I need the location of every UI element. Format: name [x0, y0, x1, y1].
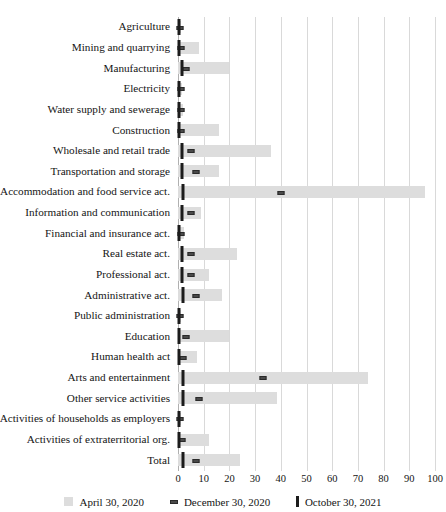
- bar-row: [178, 450, 435, 471]
- marker-december-30-2020: [192, 459, 199, 463]
- bar-row: [178, 265, 435, 286]
- bar-row: [178, 182, 435, 203]
- bar-row: [178, 141, 435, 162]
- marker-december-30-2020: [192, 170, 199, 174]
- gridline-100: [435, 17, 436, 471]
- marker-december-30-2020: [182, 335, 189, 339]
- category-label: Other service activities: [0, 388, 175, 409]
- category-label: Arts and entertainment: [0, 368, 175, 389]
- marker-october-30-2021: [177, 19, 180, 35]
- marker-october-30-2021: [177, 328, 180, 344]
- marker-december-30-2020: [192, 294, 199, 298]
- category-label: Real estate act.: [0, 244, 175, 265]
- category-label: Activities of households as employers: [0, 409, 175, 430]
- legend-label: December 30, 2020: [184, 496, 270, 508]
- marker-december-30-2020: [195, 397, 202, 401]
- x-tick-label: 20: [224, 473, 235, 484]
- category-label: Information and communication: [0, 203, 175, 224]
- marker-october-30-2021: [177, 308, 180, 324]
- bar-row: [178, 161, 435, 182]
- bar-row: [178, 203, 435, 224]
- marker-december-30-2020: [259, 376, 266, 380]
- bar-april-30-2020: [178, 372, 368, 384]
- marker-october-30-2021: [177, 349, 180, 365]
- chart-legend: April 30, 2020December 30, 2020October 3…: [0, 491, 446, 512]
- bar-rows: [178, 17, 435, 471]
- legend-item[interactable]: April 30, 2020: [64, 496, 143, 508]
- marker-october-30-2021: [177, 225, 180, 241]
- legend-swatch-tick-icon: [296, 496, 299, 507]
- legend-swatch-bar-icon: [64, 497, 73, 506]
- marker-october-30-2021: [182, 370, 185, 386]
- marker-october-30-2021: [177, 432, 180, 448]
- marker-october-30-2021: [181, 452, 184, 468]
- legend-label: October 30, 2021: [305, 496, 382, 508]
- bar-april-30-2020: [178, 289, 222, 301]
- bar-row: [178, 223, 435, 244]
- category-label: Professional act.: [0, 265, 175, 286]
- bar-row: [178, 100, 435, 121]
- marker-december-30-2020: [277, 191, 284, 195]
- bar-row: [178, 79, 435, 100]
- marker-december-30-2020: [187, 273, 194, 277]
- marker-december-30-2020: [187, 252, 194, 256]
- x-tick-label: 10: [198, 473, 209, 484]
- category-label: Financial and insurance act.: [0, 223, 175, 244]
- x-tick-label: 40: [276, 473, 287, 484]
- bar-row: [178, 244, 435, 265]
- marker-october-30-2021: [180, 205, 183, 221]
- x-tick-label: 90: [404, 473, 415, 484]
- plot-area: [178, 17, 435, 471]
- category-label: Mining and quarrying: [0, 38, 175, 59]
- category-label: Water supply and sewerage: [0, 100, 175, 121]
- bar-row: [178, 306, 435, 327]
- legend-item[interactable]: October 30, 2021: [296, 496, 381, 508]
- marker-october-30-2021: [181, 390, 184, 406]
- bar-row: [178, 17, 435, 38]
- x-tick-label: 50: [301, 473, 312, 484]
- x-tick-label: 80: [378, 473, 389, 484]
- bar-row: [178, 368, 435, 389]
- marker-october-30-2021: [182, 184, 185, 200]
- bar-row: [178, 430, 435, 451]
- bar-row: [178, 58, 435, 79]
- value-axis-ticks: 0102030405060708090100: [178, 471, 435, 489]
- bar-row: [178, 326, 435, 347]
- marker-october-30-2021: [177, 81, 180, 97]
- marker-october-30-2021: [177, 40, 180, 56]
- category-label: Agriculture: [0, 17, 175, 38]
- marker-december-30-2020: [187, 211, 194, 215]
- bar-row: [178, 388, 435, 409]
- category-label: Accommodation and food service act.: [0, 182, 175, 203]
- x-tick-label: 60: [327, 473, 338, 484]
- marker-october-30-2021: [177, 102, 180, 118]
- category-label: Human health act: [0, 347, 175, 368]
- marker-october-30-2021: [180, 143, 183, 159]
- x-tick-label: 100: [427, 473, 443, 484]
- legend-label: April 30, 2020: [79, 496, 143, 508]
- marker-october-30-2021: [180, 60, 183, 76]
- marker-december-30-2020: [187, 149, 194, 153]
- category-label: Administrative act.: [0, 285, 175, 306]
- marker-october-30-2021: [181, 287, 184, 303]
- bar-row: [178, 285, 435, 306]
- category-label: Public administration: [0, 306, 175, 327]
- bar-april-30-2020: [178, 392, 277, 404]
- category-label: Manufacturing: [0, 58, 175, 79]
- category-label: Total: [0, 450, 175, 471]
- marker-december-30-2020: [180, 356, 187, 360]
- category-axis-labels: AgricultureMining and quarryingManufactu…: [0, 17, 175, 471]
- category-label: Activities of extraterritorial org.: [0, 430, 175, 451]
- marker-october-30-2021: [180, 246, 183, 262]
- marker-october-30-2021: [180, 267, 183, 283]
- category-label: Construction: [0, 120, 175, 141]
- bar-april-30-2020: [178, 454, 240, 466]
- category-label: Electricity: [0, 79, 175, 100]
- category-label: Wholesale and retail trade: [0, 141, 175, 162]
- bar-row: [178, 120, 435, 141]
- category-label: Transportation and storage: [0, 161, 175, 182]
- x-tick-label: 70: [353, 473, 364, 484]
- horizontal-bar-chart: AgricultureMining and quarryingManufactu…: [0, 0, 446, 512]
- legend-item[interactable]: December 30, 2020: [170, 496, 270, 508]
- marker-october-30-2021: [180, 163, 183, 179]
